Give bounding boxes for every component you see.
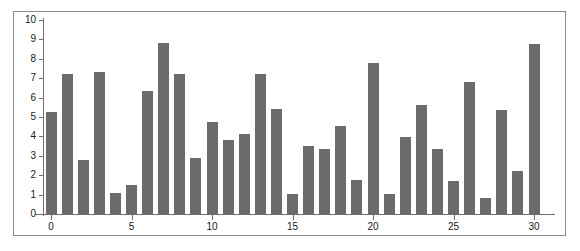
- x-axis-tick-label: 15: [287, 222, 298, 232]
- y-axis-tick-label: 4: [30, 131, 36, 141]
- bar: [384, 194, 395, 214]
- bar: [207, 122, 218, 214]
- x-axis-tick-label: 5: [129, 222, 135, 232]
- bar: [271, 109, 282, 214]
- bar: [46, 112, 57, 214]
- bar: [142, 91, 153, 214]
- bar: [190, 158, 201, 214]
- bar: [529, 44, 540, 214]
- bar: [512, 171, 523, 214]
- y-axis-tick-label: 6: [30, 93, 36, 103]
- x-axis: 051015202530: [0, 215, 580, 245]
- bar: [239, 134, 250, 214]
- bar: [126, 185, 137, 214]
- x-axis-tick: [212, 215, 213, 220]
- bar: [448, 181, 459, 214]
- x-axis-tick-label: 10: [206, 222, 217, 232]
- bar: [78, 160, 89, 214]
- x-axis-tick: [373, 215, 374, 220]
- bar-chart-figure: 012345678910 051015202530: [0, 0, 580, 251]
- x-axis-tick: [454, 215, 455, 220]
- x-axis-tick-label: 20: [367, 222, 378, 232]
- bar: [480, 198, 491, 214]
- bar: [94, 72, 105, 214]
- y-axis-tick-label: 7: [30, 73, 36, 83]
- bar: [319, 149, 330, 214]
- bar: [303, 146, 314, 214]
- bar: [158, 43, 169, 214]
- bar: [496, 110, 507, 214]
- y-axis-tick-label: 2: [30, 170, 36, 180]
- bar: [432, 149, 443, 214]
- x-axis-tick: [132, 215, 133, 220]
- bar: [351, 180, 362, 214]
- plot-area: [44, 20, 552, 214]
- bar: [287, 194, 298, 214]
- y-axis-tick-label: 3: [30, 151, 36, 161]
- bar: [416, 105, 427, 214]
- x-axis-tick-label: 30: [528, 222, 539, 232]
- y-axis-tick-label: 1: [30, 190, 36, 200]
- x-axis-tick-label: 25: [448, 222, 459, 232]
- bar: [110, 193, 121, 214]
- bar: [62, 74, 73, 214]
- y-axis-tick-label: 9: [30, 34, 36, 44]
- bar: [368, 63, 379, 214]
- x-axis-tick: [51, 215, 52, 220]
- y-axis: 012345678910: [0, 0, 44, 251]
- x-axis-tick: [534, 215, 535, 220]
- x-axis-tick: [293, 215, 294, 220]
- y-axis-tick-label: 8: [30, 54, 36, 64]
- y-axis-tick-label: 5: [30, 112, 36, 122]
- bar: [335, 126, 346, 214]
- bar: [174, 74, 185, 214]
- bar: [400, 137, 411, 214]
- y-axis-tick-label: 10: [25, 15, 36, 25]
- x-axis-tick-label: 0: [48, 222, 54, 232]
- bars-layer: [44, 20, 552, 214]
- bar: [223, 140, 234, 214]
- bar: [255, 74, 266, 214]
- bar: [464, 82, 475, 214]
